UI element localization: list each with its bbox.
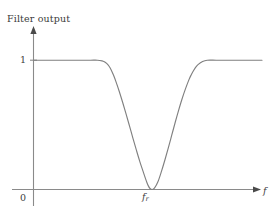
y-tick-label-one: 1 xyxy=(20,55,26,65)
filter-output-figure: Filter output 1 0 fr f xyxy=(0,0,275,216)
x-axis-symbol-label: f xyxy=(263,186,267,196)
page-title: Filter output xyxy=(7,14,70,24)
notch-frequency-subscript: r xyxy=(146,195,149,203)
filter-response-curve xyxy=(34,60,263,189)
x-axis-arrow-icon xyxy=(253,186,261,192)
notch-frequency-label: fr xyxy=(142,192,149,203)
y-axis-arrow-icon xyxy=(30,26,36,34)
notch-filter-plot xyxy=(0,0,275,216)
origin-label: 0 xyxy=(20,193,26,203)
